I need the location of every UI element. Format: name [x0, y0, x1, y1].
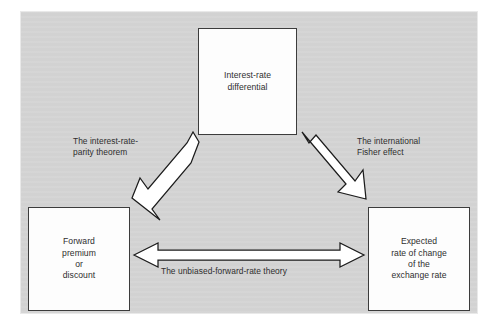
scan-header-fragment: [34, 0, 334, 6]
node-expected-rate-of-change-label: Expected rate of change of the exchange …: [386, 236, 452, 282]
edge-label-international-fisher-effect: The international Fisher effect: [357, 136, 420, 158]
edge-label-interest-rate-parity-theorem: The interest-rate- parity theorem: [73, 136, 138, 158]
node-forward-premium-or-discount-label: Forward premium or discount: [57, 236, 101, 282]
node-interest-rate-differential: Interest-rate differential: [198, 28, 297, 135]
edge-label-unbiased-forward-rate-theory: The unbiased-forward-rate theory: [161, 266, 287, 277]
node-forward-premium-or-discount: Forward premium or discount: [28, 207, 130, 311]
parity-relationships-diagram: Interest-rate differential Forward premi…: [0, 0, 495, 332]
node-expected-rate-of-change: Expected rate of change of the exchange …: [368, 207, 470, 311]
node-interest-rate-differential-label: Interest-rate differential: [219, 70, 276, 93]
